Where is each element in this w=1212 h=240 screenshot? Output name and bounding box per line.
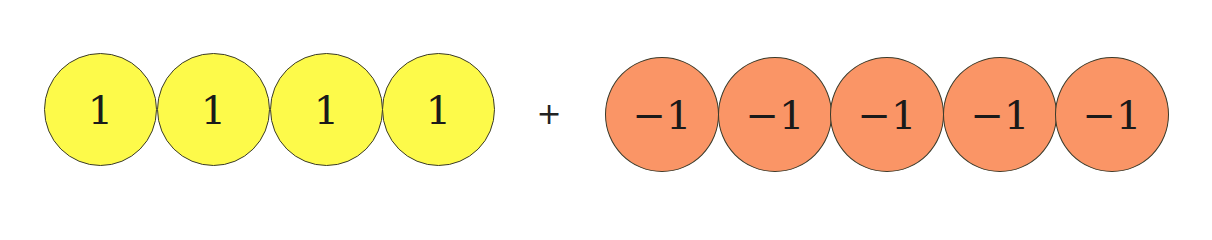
- negative-counter: −1: [943, 57, 1057, 172]
- positive-counter: 1: [44, 53, 157, 166]
- positive-counter: 1: [382, 53, 495, 166]
- negative-counter: −1: [605, 57, 719, 172]
- plus-operator: +: [536, 96, 562, 131]
- negative-counter: −1: [718, 57, 832, 172]
- negative-counter: −1: [830, 57, 944, 172]
- negative-counter: −1: [1055, 57, 1169, 172]
- positive-counter: 1: [157, 53, 270, 166]
- positive-counter: 1: [270, 53, 383, 166]
